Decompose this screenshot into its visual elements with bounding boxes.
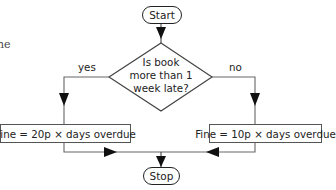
decision-line-3: week late? xyxy=(121,82,201,95)
decision-text: Is book more than 1 week late? xyxy=(121,56,201,95)
process-fine-20p: Fine = 20p × days overdue xyxy=(0,124,131,143)
yes-branch-label: yes xyxy=(78,61,96,73)
decision-line-2: more than 1 xyxy=(121,69,201,82)
no-branch-label: no xyxy=(229,61,242,73)
process-fine-10p-label: Fine = 10p × days overdue xyxy=(195,128,336,140)
stop-terminal: Stop xyxy=(143,167,180,185)
arrowhead-down-icon xyxy=(59,93,69,106)
process-fine-10p: Fine = 10p × days overdue xyxy=(209,124,322,143)
start-label: Start xyxy=(149,9,175,21)
arrowhead-down-icon xyxy=(250,93,260,106)
arrowhead-down-icon xyxy=(156,27,166,39)
arrowhead-right-icon xyxy=(104,147,117,157)
process-fine-20p-label: Fine = 20p × days overdue xyxy=(0,128,136,140)
start-terminal: Start xyxy=(142,6,182,24)
arrowhead-left-icon xyxy=(206,147,219,157)
arrowhead-down-icon xyxy=(156,156,166,167)
cropped-body-text: ne xyxy=(0,38,11,51)
stop-label: Stop xyxy=(150,170,174,182)
decision-line-1: Is book xyxy=(121,56,201,69)
